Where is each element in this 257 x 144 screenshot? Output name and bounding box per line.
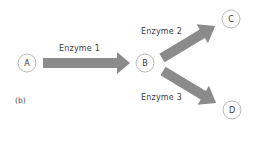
diagram-canvas: Enzyme 1 Enzyme 2 Enzyme 3 A B C D (b) <box>0 0 257 144</box>
edge-label-enzyme-3: Enzyme 3 <box>141 93 182 102</box>
arrow-b-to-c <box>156 17 220 68</box>
arrow-a-to-b <box>43 52 130 74</box>
node-c: C <box>222 10 240 28</box>
node-a-label: A <box>24 59 30 68</box>
panel-label: (b) <box>15 96 26 105</box>
edge-label-enzyme-1: Enzyme 1 <box>59 44 100 53</box>
enzyme-pathway-diagram: Enzyme 1 Enzyme 2 Enzyme 3 A B C D (b) <box>0 0 257 144</box>
node-a: A <box>18 54 36 72</box>
node-c-label: C <box>228 15 234 24</box>
node-b: B <box>136 54 154 72</box>
node-b-label: B <box>142 59 148 68</box>
node-d-label: D <box>229 106 235 115</box>
node-d: D <box>223 101 241 119</box>
edge-label-enzyme-2: Enzyme 2 <box>141 27 182 36</box>
arrow-b-to-d <box>157 62 221 113</box>
